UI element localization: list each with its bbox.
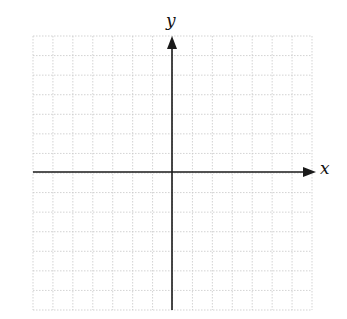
x-axis-arrow-icon [303,167,316,177]
x-axis-label: x [320,160,330,177]
y-axis-label: y [166,12,176,29]
y-axis-arrow-icon [167,36,177,49]
coordinate-plane [0,0,347,319]
